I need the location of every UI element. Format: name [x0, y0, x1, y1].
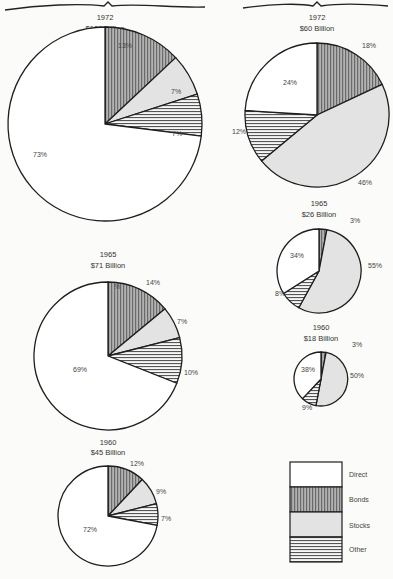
slice-label-other: 12% — [232, 128, 246, 135]
slice-label-stocks: 55% — [368, 262, 382, 269]
legend: Direct Bonds Stocks Other — [290, 462, 371, 562]
slice-label-other: 10% — [184, 369, 198, 376]
pie-year-title: 1972 — [309, 13, 326, 22]
pie-left-1965: 1965$71 Billion14%7%10%69%% — [34, 250, 198, 430]
slice-label-stocks: 46% — [358, 179, 372, 186]
slice-direct — [245, 43, 317, 115]
slice-label-bonds: 12% — [130, 460, 144, 467]
pie-total-subtitle: $26 Billion — [302, 210, 337, 219]
pie-year-title: 1960 — [100, 438, 117, 447]
legend-swatch-other — [290, 537, 342, 562]
legend-item-bonds: Bonds — [290, 487, 369, 512]
slice-label-stocks: 50% — [350, 372, 364, 379]
left-brace-decoration — [5, 2, 205, 10]
slice-label-stocks: 9% — [156, 488, 166, 495]
legend-swatch-direct — [290, 462, 342, 487]
legend-swatch-stocks — [290, 512, 342, 537]
slice-label-bonds: 3% — [350, 217, 360, 224]
slice-label-direct: 72% — [83, 526, 97, 533]
stray-percent-mark: % — [114, 283, 120, 290]
legend-label-other: Other — [349, 546, 367, 553]
slice-label-bonds: 18% — [362, 42, 376, 49]
slice-label-other: 7% — [161, 515, 171, 522]
pie-right-1965: 1965$26 Billion3%55%8%34% — [275, 199, 382, 313]
legend-item-direct: Direct — [290, 462, 367, 487]
pie-year-title: 1960 — [313, 323, 330, 332]
slice-label-bonds: 14% — [146, 279, 160, 286]
legend-swatch-bonds — [290, 487, 342, 512]
slice-label-direct: 34% — [290, 252, 304, 259]
pie-right-1972: 1972$60 Billion18%46%12%24% — [232, 13, 389, 187]
slice-label-other: 8% — [275, 290, 285, 297]
slice-label-other: 9% — [302, 404, 312, 411]
legend-item-other: Other — [290, 537, 367, 562]
slice-label-direct: 69% — [73, 366, 87, 373]
legend-label-stocks: Stocks — [349, 522, 371, 529]
pension-assets-pie-charts: 1972$128 Billion13%7%7%73%1965$71 Billio… — [0, 0, 393, 579]
pie-left-1960: 1960$45 Billion12%9%7%72% — [58, 438, 171, 566]
legend-item-stocks: Stocks — [290, 512, 371, 537]
legend-label-direct: Direct — [349, 471, 367, 478]
pie-year-title: 1972 — [97, 13, 114, 22]
legend-label-bonds: Bonds — [349, 496, 369, 503]
pie-total-subtitle: $18 Billion — [304, 334, 339, 343]
slice-label-stocks: 7% — [177, 318, 187, 325]
slice-label-direct: 38% — [301, 366, 315, 373]
slice-label-bonds: 3% — [352, 341, 362, 348]
slice-label-direct: 24% — [283, 79, 297, 86]
pie-year-title: 1965 — [100, 250, 117, 259]
slice-label-bonds: 13% — [118, 42, 132, 49]
pie-left-1972: 1972$128 Billion13%7%7%73% — [8, 13, 202, 221]
pie-right-1960: 1960$18 Billion3%50%9%38% — [294, 323, 364, 411]
pie-year-title: 1965 — [311, 199, 328, 208]
right-brace-decoration — [243, 2, 388, 8]
pie-total-subtitle: $45 Billion — [91, 448, 126, 457]
slice-label-other: 7% — [172, 130, 182, 137]
pie-total-subtitle: $71 Billion — [91, 261, 126, 270]
slice-label-stocks: 7% — [171, 88, 181, 95]
slice-label-direct: 73% — [33, 151, 47, 158]
pie-total-subtitle: $60 Billion — [300, 24, 335, 33]
